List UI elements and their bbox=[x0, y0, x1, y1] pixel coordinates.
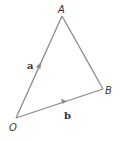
arrow-a-icon bbox=[36, 62, 41, 69]
label-vector-b: b bbox=[64, 110, 71, 121]
vector-b-line bbox=[16, 89, 103, 118]
label-O: O bbox=[9, 122, 17, 133]
label-vector-a: a bbox=[27, 60, 34, 71]
triangle-diagram: A O B a b bbox=[0, 0, 120, 141]
label-B: B bbox=[105, 85, 112, 96]
edge-ab-line bbox=[62, 16, 103, 89]
label-A: A bbox=[57, 4, 65, 15]
